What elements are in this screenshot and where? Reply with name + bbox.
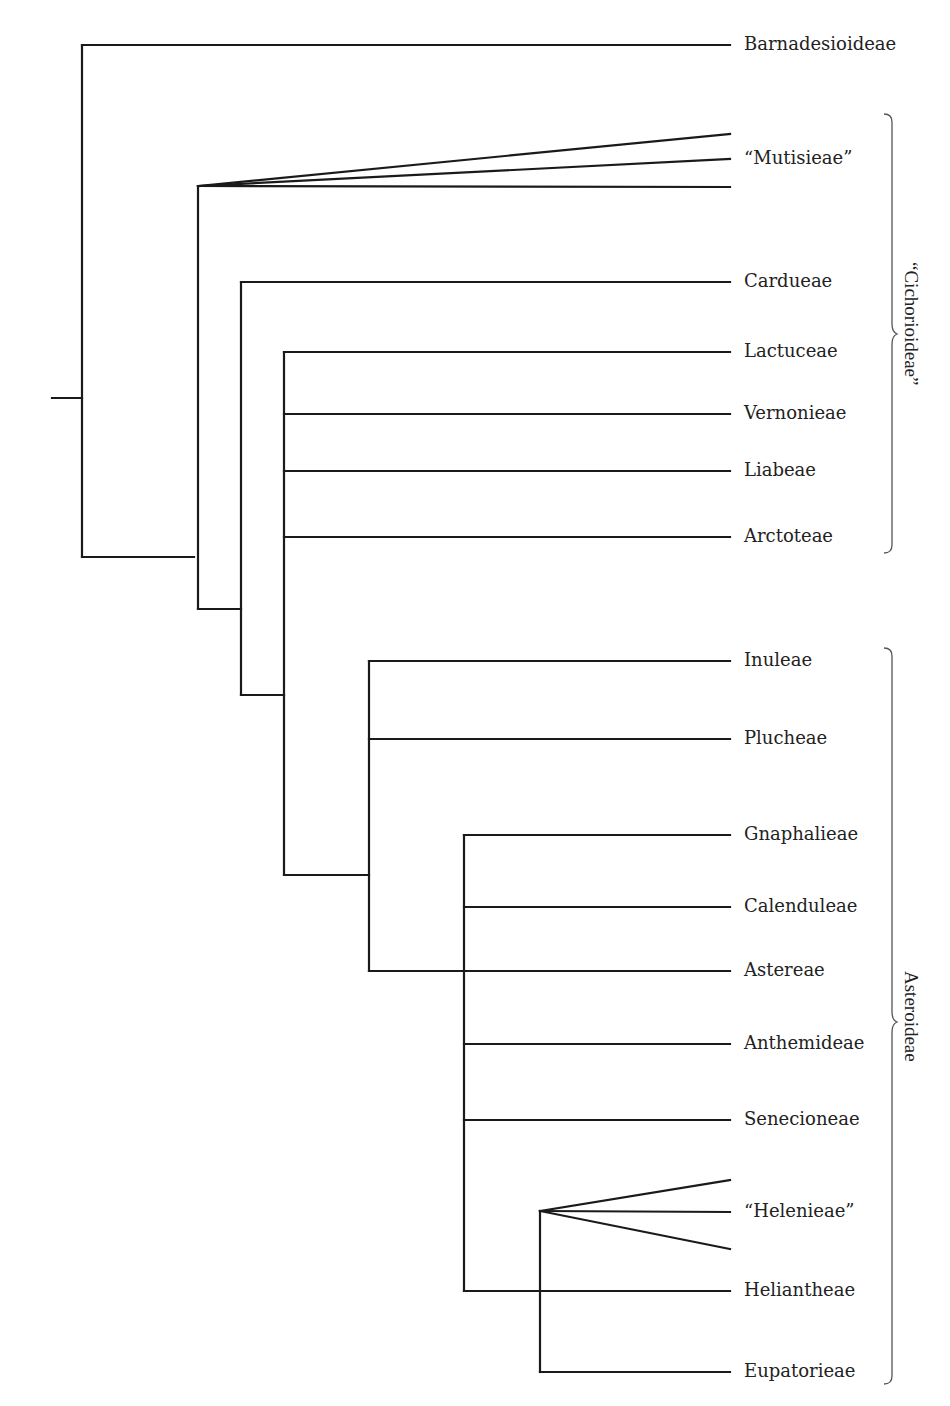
taxon-label-barnadesioideae: Barnadesioideae: [744, 35, 896, 53]
taxon-label-vernonieae: Vernonieae: [744, 404, 846, 422]
root-clade: [52, 45, 730, 557]
asteroideae-brace: [884, 648, 897, 1384]
taxon-label-calenduleae: Calenduleae: [744, 897, 857, 915]
lactuceae-clade: [284, 352, 730, 875]
taxon-label-mutisieae: “Mutisieae”: [744, 149, 852, 167]
taxon-label-cardueae: Cardueae: [744, 272, 832, 290]
taxon-label-heliantheae: Heliantheae: [744, 1281, 855, 1299]
taxon-label-helenieae: “Helenieae”: [744, 1202, 855, 1220]
helenieae-clade: [540, 1180, 730, 1372]
cichorioideae-brace: [884, 114, 897, 553]
taxon-label-inuleae: Inuleae: [744, 651, 812, 669]
branch-mutisieae-c: [198, 186, 730, 187]
taxon-label-anthemideae: Anthemideae: [744, 1034, 864, 1052]
branch-helenieae-a: [540, 1180, 730, 1211]
taxon-label-arctoteae: Arctoteae: [744, 527, 833, 545]
group-label-asteroideae: Asteroideae: [900, 971, 922, 1062]
branch-mutisieae-b: [198, 159, 730, 186]
taxon-label-gnaphalieae: Gnaphalieae: [744, 825, 858, 843]
taxon-label-senecioneae: Senecioneae: [744, 1110, 860, 1128]
taxon-label-astereae: Astereae: [744, 961, 825, 979]
cladogram-tree: [0, 0, 950, 1406]
branch-helenieae-c: [540, 1211, 730, 1249]
taxon-label-liabeae: Liabeae: [744, 461, 816, 479]
group-label-cichorioideae: “Cichorioideae”: [900, 262, 922, 385]
taxon-label-plucheae: Plucheae: [744, 729, 827, 747]
taxon-label-eupatorieae: Eupatorieae: [744, 1362, 855, 1380]
branch-mutisieae-a: [198, 134, 730, 186]
branch-helenieae-b: [540, 1211, 730, 1212]
cardueae-clade: [241, 282, 730, 695]
asteroideae-clade: [369, 661, 730, 971]
taxon-label-lactuceae: Lactuceae: [744, 342, 838, 360]
